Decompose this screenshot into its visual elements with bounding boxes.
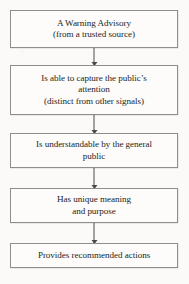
node-text-line: (distinct from other signals) — [44, 96, 144, 107]
node-text-line: public — [83, 151, 105, 162]
flowchart-node-warning-advisory: A Warning Advisory (from a trusted sourc… — [10, 10, 178, 48]
node-text-line: Provides recommended actions — [38, 250, 150, 261]
flowchart-node-unique-meaning: Has unique meaning and purpose — [10, 188, 178, 223]
connector-arrow-down — [94, 48, 95, 65]
connector-arrow-down — [94, 223, 95, 243]
node-text-line: Is able to capture the public’s — [41, 73, 146, 84]
connector-arrow-down — [94, 115, 95, 133]
node-text-line: A Warning Advisory — [57, 18, 131, 29]
flowchart-diagram: A Warning Advisory (from a trusted sourc… — [0, 0, 189, 284]
node-text-line: Is understandable by the general — [36, 139, 152, 150]
node-text-line: (from a trusted source) — [53, 29, 135, 40]
node-text-line: attention — [78, 84, 109, 95]
node-text-line: and purpose — [72, 206, 116, 217]
flowchart-node-recommended-actions: Provides recommended actions — [10, 243, 178, 268]
flowchart-node-understandable: Is understandable by the general public — [10, 133, 178, 168]
flowchart-node-capture-attention: Is able to capture the public’s attentio… — [10, 65, 178, 115]
node-text-line: Has unique meaning — [57, 194, 131, 205]
connector-arrow-down — [94, 168, 95, 188]
